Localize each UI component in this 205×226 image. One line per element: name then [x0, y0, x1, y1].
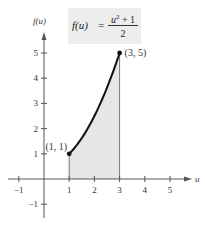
x-axis-arrow-icon	[184, 177, 192, 182]
x-tick-label: −1	[14, 185, 24, 195]
point-marker	[117, 51, 122, 56]
x-tick-label: 5	[168, 185, 173, 195]
x-tick-label: 1	[67, 185, 72, 195]
y-tick-label: 4	[34, 73, 39, 83]
y-tick-label: 1	[34, 149, 39, 159]
x-tick-label: 3	[117, 185, 122, 195]
x-tick-label: 2	[92, 185, 97, 195]
y-axis-label: f(u)	[33, 16, 46, 26]
formula-label: f(u) = u2 + 1 2	[68, 8, 141, 44]
x-axis-label: u	[195, 174, 200, 184]
x-tick-label: 4	[143, 185, 148, 195]
y-axis-arrow-icon	[42, 32, 47, 40]
formula-fraction: u2 + 1 2	[108, 10, 138, 40]
formula-numerator: u2 + 1	[108, 10, 138, 24]
y-tick-label: −1	[28, 199, 38, 209]
formula-equals: =	[98, 19, 104, 31]
point-marker	[67, 151, 72, 156]
point-label: (3, 5)	[125, 47, 147, 59]
y-tick-label: 2	[34, 124, 39, 134]
formula-denominator: 2	[108, 27, 138, 40]
point-label: (1, 1)	[46, 141, 68, 153]
formula-lhs: f(u)	[72, 19, 88, 31]
y-tick-label: 5	[34, 48, 39, 58]
y-tick-label: 3	[34, 98, 39, 108]
